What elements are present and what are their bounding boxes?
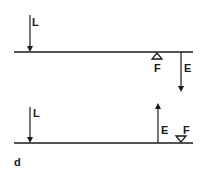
fulcrum-inverted-triangle-icon	[176, 136, 186, 142]
lever-bottom: L E F	[14, 106, 193, 143]
lever-top: L F E	[14, 15, 193, 89]
load-label-bottom: L	[33, 107, 40, 119]
fulcrum-label-top: F	[154, 62, 161, 74]
load-label-top: L	[32, 16, 39, 28]
lever-diagram-svg: L F E L E F d	[0, 0, 208, 181]
effort-label-top: E	[184, 62, 191, 74]
panel-label: d	[14, 156, 21, 168]
fulcrum-label-bottom: F	[183, 124, 190, 136]
effort-label-bottom: E	[161, 124, 168, 136]
fulcrum-triangle-icon	[152, 53, 162, 59]
lever-diagram-figure: L F E L E F d	[0, 0, 208, 181]
